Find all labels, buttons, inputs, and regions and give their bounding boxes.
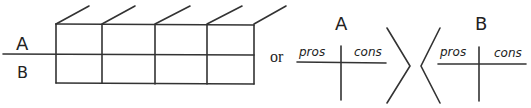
- chevron-right-icon: [387, 28, 410, 103]
- table-b-pros: pros: [439, 45, 466, 59]
- connector-text: or: [270, 48, 284, 65]
- row-label-a: A: [16, 33, 29, 54]
- table-a-cons: cons: [354, 45, 382, 59]
- grid-diagonal: [155, 6, 190, 24]
- decision-diagram: A B or A pros cons B pros cons: [0, 0, 531, 108]
- chevron-left-icon: [421, 28, 440, 103]
- table-a-pros: pros: [298, 45, 325, 59]
- table-a-title: A: [335, 13, 348, 34]
- grid-diagonal: [102, 6, 135, 24]
- table-b-cons: cons: [494, 46, 522, 60]
- grid-diagonal: [254, 6, 286, 24]
- row-divider: [3, 54, 254, 55]
- grid-diagonal: [56, 6, 89, 24]
- grid-diagonal: [207, 6, 242, 24]
- table-b-title: B: [475, 13, 487, 34]
- row-label-b: B: [17, 63, 28, 82]
